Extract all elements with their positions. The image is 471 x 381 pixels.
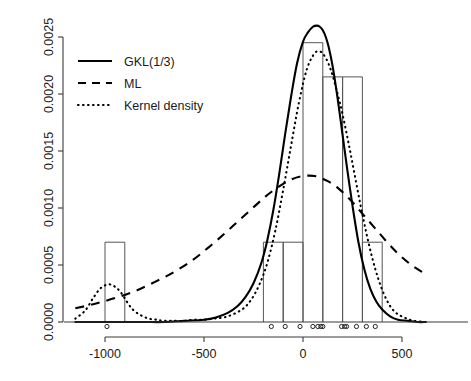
kernel-density-curve	[75, 51, 425, 322]
gkl-curve	[75, 26, 425, 322]
y-axis-tick-label: 0.0015	[42, 132, 56, 170]
legend-label: Kernel density	[124, 99, 204, 113]
rug-circle-marker	[354, 324, 358, 328]
x-axis-tick-label: 0	[300, 347, 307, 361]
rug-circle-marker	[269, 324, 273, 328]
y-axis-tick-label: 0.0000	[42, 303, 56, 341]
histogram-bar	[283, 242, 303, 322]
histogram-bars	[105, 43, 382, 322]
rug-circle-marker	[298, 324, 302, 328]
legend-label: GKL(1/3)	[124, 55, 175, 69]
series-path	[75, 26, 425, 322]
rug-circle-marker	[105, 324, 109, 328]
rug-circle-marker	[283, 324, 287, 328]
plot-canvas: 0.00000.00050.00100.00150.00200.0025 -10…	[0, 0, 471, 381]
density-plot-figure: 0.00000.00050.00100.00150.00200.0025 -10…	[0, 0, 471, 381]
rug-circle-marker	[311, 324, 315, 328]
x-axis-tick-label: -500	[191, 347, 216, 361]
x-axis-tick-label: 500	[392, 347, 413, 361]
series-path	[75, 51, 425, 322]
legend-label: ML	[124, 77, 141, 91]
plot-legend: GKL(1/3)MLKernel density	[78, 55, 204, 113]
histogram-bar	[105, 242, 125, 322]
y-axis-tick-label: 0.0010	[42, 189, 56, 227]
x-axis: -1000-5000500	[64, 322, 468, 361]
rug-markers	[105, 324, 377, 328]
y-axis: 0.00000.00050.00100.00150.00200.0025	[42, 18, 63, 341]
x-axis-tick-label: -1000	[89, 347, 121, 361]
y-axis-tick-label: 0.0025	[42, 18, 56, 56]
y-axis-tick-label: 0.0005	[42, 246, 56, 284]
y-axis-tick-label: 0.0020	[42, 75, 56, 113]
rug-circle-marker	[373, 324, 377, 328]
histogram-bar	[303, 43, 323, 322]
rug-circle-marker	[364, 324, 368, 328]
histogram-bar	[263, 242, 283, 322]
